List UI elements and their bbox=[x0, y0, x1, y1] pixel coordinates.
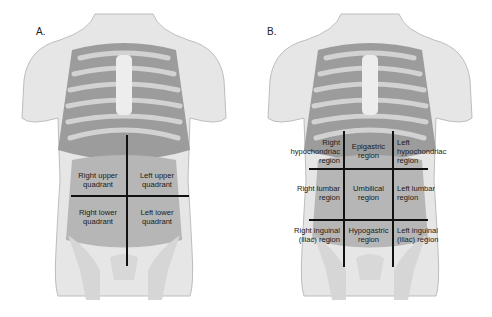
panel-b-nine-regions: B. Right hypochondriac region Epigastric… bbox=[246, 0, 492, 317]
hypogastric-region-label: Hypogastric region bbox=[343, 226, 394, 244]
right-lower-quadrant-label: Right lower quadrant bbox=[70, 208, 126, 226]
epigastric-region-label: Epigastric region bbox=[345, 142, 392, 160]
right-hypochondriac-region-label: Right hypochondriac region bbox=[282, 138, 340, 165]
vertical-midline bbox=[126, 135, 128, 266]
panel-a-label: A. bbox=[36, 26, 45, 37]
horizontal-umbilical-line bbox=[71, 195, 189, 197]
left-hypochondriac-region-label: Left hypochondriac region bbox=[397, 138, 457, 165]
torso-illustration-a bbox=[0, 0, 246, 317]
right-inguinal-region-label: Right inguinal (iliac) region bbox=[276, 226, 340, 244]
subcostal-line bbox=[309, 168, 428, 170]
right-upper-quadrant-label: Right upper quadrant bbox=[70, 171, 126, 189]
panel-b-label: B. bbox=[267, 26, 276, 37]
left-midclavicular-line bbox=[392, 131, 394, 267]
right-lumbar-region-label: Right lumbar region bbox=[282, 184, 340, 202]
umbilical-region-label: Umbilical region bbox=[345, 184, 392, 202]
left-lower-quadrant-label: Left lower quadrant bbox=[129, 208, 185, 226]
panel-a-quadrants: A. Right upper quadrant Left upper quadr… bbox=[0, 0, 246, 317]
left-upper-quadrant-label: Left upper quadrant bbox=[129, 171, 185, 189]
left-inguinal-region-label: Left inguinal (iliac) region bbox=[397, 226, 461, 244]
left-lumbar-region-label: Left lumbar region bbox=[397, 184, 457, 202]
intertubercular-line bbox=[309, 219, 428, 221]
